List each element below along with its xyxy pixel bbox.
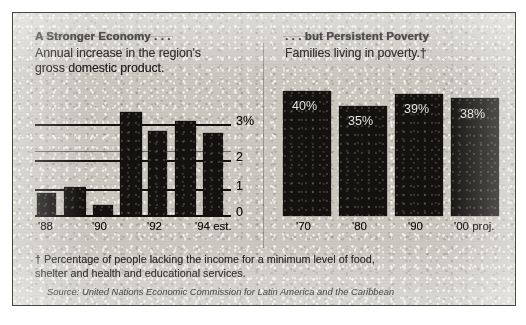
bar-1992 [148,131,167,215]
xtick-label-70: '70 [296,220,311,232]
left-chart-kicker: A Stronger Economy . . . [35,30,171,42]
axis-baseline [35,215,231,217]
infographic-page: A Stronger Economy . . . Annual increase… [0,0,526,325]
right-chart-kicker: . . . but Persistent Poverty [285,30,429,42]
bar-1989 [64,187,86,215]
ytick-label-3: 3% [236,114,254,128]
bar-value-1980: 35% [348,114,373,128]
xtick-label-94: '94 est. [195,220,232,232]
xtick-label-88: '88 [38,220,53,232]
xtick-label-92: '92 [147,220,162,232]
bar-1994 [203,133,223,215]
bar-1988 [37,193,56,215]
xtick-label-80: '80 [352,220,367,232]
bar-1991 [120,112,142,215]
xtick-label-90-poverty: '90 [408,220,423,232]
ytick-label-2: 2 [236,150,243,164]
chart-panel: A Stronger Economy . . . Annual increase… [12,12,516,306]
ytick-label-1: 1 [236,179,243,193]
xtick-label-90: '90 [92,220,107,232]
bar-value-1970: 40% [292,99,317,113]
bar-1990 [93,205,113,215]
footnote-text: † Percentage of people lacking the incom… [35,253,475,281]
xtick-label-00-proj: '00 proj. [454,220,495,232]
right-chart-subhead: Families living in poverty.† [285,46,515,61]
bar-value-1990: 39% [404,102,429,116]
source-credit: Source: United Nations Economic Commissi… [47,286,497,297]
bar-value-2000: 38% [460,107,485,121]
left-chart-subhead: Annual increase in the region's gross do… [35,46,265,76]
panel-divider [263,43,264,248]
ytick-label-0: 0 [236,205,243,219]
bar-1993 [175,121,196,215]
gdp-growth-chart [35,91,231,216]
